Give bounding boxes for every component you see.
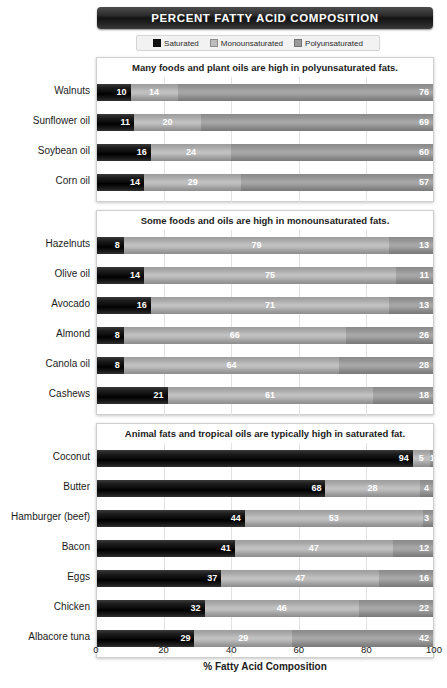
bar-segment-sat[interactable]: 32 — [97, 600, 205, 617]
bar-segment-mono[interactable]: 5 — [413, 450, 430, 467]
bar-segment-value: 12 — [393, 543, 433, 553]
bar-segment-poly[interactable]: 11 — [396, 267, 433, 284]
bar-segment-sat[interactable]: 21 — [97, 387, 168, 404]
bar-segment-value: 76 — [178, 87, 433, 97]
chart-bar-row[interactable]: 86428 — [97, 350, 433, 380]
bar-segment-poly[interactable]: 18 — [373, 387, 433, 404]
stacked-bar[interactable]: 216118 — [97, 387, 433, 404]
stacked-bar[interactable]: 86428 — [97, 357, 433, 374]
stacked-bar[interactable]: 87913 — [97, 237, 433, 254]
bar-segment-sat[interactable]: 16 — [97, 297, 151, 314]
bar-segment-mono[interactable]: 20 — [134, 114, 201, 131]
bar-segment-sat[interactable]: 8 — [97, 237, 124, 254]
x-axis-tick: 20 — [158, 644, 169, 655]
stacked-bar[interactable]: 86626 — [97, 327, 433, 344]
stacked-bar[interactable]: 112069 — [97, 114, 433, 131]
bar-segment-poly[interactable]: 22 — [359, 600, 433, 617]
bar-segment-mono[interactable]: 61 — [168, 387, 373, 404]
stacked-bar[interactable]: 324622 — [97, 600, 433, 617]
bar-segment-poly[interactable]: 16 — [379, 570, 433, 587]
bar-segment-sat[interactable]: 8 — [97, 327, 124, 344]
stacked-bar[interactable]: 9451 — [97, 450, 433, 467]
stacked-bar[interactable]: 68284 — [97, 480, 433, 497]
chart-bar-row[interactable]: 87913 — [97, 230, 433, 260]
legend-item-label: Polyunsaturated — [305, 39, 363, 48]
bar-segment-mono[interactable]: 47 — [221, 570, 379, 587]
bar-segment-poly[interactable]: 76 — [178, 84, 433, 101]
bar-segment-mono[interactable]: 29 — [144, 174, 241, 191]
chart-bar-row[interactable]: 101476 — [97, 77, 433, 107]
chart-bar-row[interactable]: 374716 — [97, 563, 433, 593]
chart-bar-row[interactable]: 112069 — [97, 107, 433, 137]
chart-bar-row[interactable]: 324622 — [97, 593, 433, 623]
bar-segment-poly[interactable]: 13 — [389, 297, 433, 314]
bar-segment-sat[interactable]: 8 — [97, 357, 124, 374]
bar-segment-mono[interactable]: 75 — [144, 267, 396, 284]
stacked-bar[interactable]: 142957 — [97, 174, 433, 191]
category-label: Butter — [63, 482, 90, 492]
bar-segment-sat[interactable]: 37 — [97, 570, 221, 587]
bar-segment-sat[interactable]: 41 — [97, 540, 235, 557]
bar-segment-sat[interactable]: 11 — [97, 114, 134, 131]
bar-segment-value: 47 — [221, 573, 379, 583]
bar-segment-value: 71 — [151, 300, 390, 310]
chart-bar-row[interactable]: 142957 — [97, 167, 433, 197]
bar-segment-poly[interactable]: 4 — [420, 480, 433, 497]
bar-segment-mono[interactable]: 53 — [245, 510, 423, 527]
chart-bar-row[interactable]: 167113 — [97, 290, 433, 320]
bar-segment-value: 75 — [144, 270, 396, 280]
bar-segment-mono[interactable]: 46 — [205, 600, 360, 617]
bar-segment-poly[interactable]: 57 — [241, 174, 433, 191]
stacked-bar[interactable]: 162460 — [97, 144, 433, 161]
stacked-bar[interactable]: 44533 — [97, 510, 433, 527]
bar-segment-sat[interactable]: 16 — [97, 144, 151, 161]
bar-segment-sat[interactable]: 44 — [97, 510, 245, 527]
stacked-bar[interactable]: 101476 — [97, 84, 433, 101]
bar-segment-poly[interactable]: 69 — [201, 114, 433, 131]
bar-segment-poly[interactable]: 28 — [339, 357, 433, 374]
chart-bar-row[interactable]: 216118 — [97, 380, 433, 410]
bar-segment-value: 28 — [325, 483, 419, 493]
bar-segment-mono[interactable]: 14 — [131, 84, 178, 101]
bar-segment-poly[interactable]: 60 — [231, 144, 433, 161]
bar-segment-sat[interactable]: 14 — [97, 174, 144, 191]
bar-segment-poly[interactable]: 12 — [393, 540, 433, 557]
bar-segment-sat[interactable]: 94 — [97, 450, 413, 467]
stacked-bar[interactable]: 167113 — [97, 297, 433, 314]
bar-segment-mono[interactable]: 64 — [124, 357, 339, 374]
stacked-bar[interactable]: 147511 — [97, 267, 433, 284]
bar-segment-poly[interactable]: 1 — [430, 450, 433, 467]
category-label: Coconut — [53, 452, 90, 462]
bar-segment-value: 61 — [168, 390, 373, 400]
bar-segment-mono[interactable]: 79 — [124, 237, 389, 254]
bar-segment-mono[interactable]: 28 — [325, 480, 419, 497]
chart-bar-row[interactable]: 9451 — [97, 443, 433, 473]
bar-segment-poly[interactable]: 13 — [389, 237, 433, 254]
chart-bar-row[interactable]: 414712 — [97, 533, 433, 563]
bar-segment-value: 79 — [124, 240, 389, 250]
chart-bar-row[interactable]: 162460 — [97, 137, 433, 167]
chart-bar-row[interactable]: 147511 — [97, 260, 433, 290]
bar-segment-mono[interactable]: 71 — [151, 297, 390, 314]
bar-segment-value: 22 — [359, 603, 433, 613]
bar-segment-mono[interactable]: 24 — [151, 144, 232, 161]
chart-bar-row[interactable]: 44533 — [97, 503, 433, 533]
bar-segment-poly[interactable]: 3 — [423, 510, 433, 527]
bar-segment-sat[interactable]: 68 — [97, 480, 325, 497]
chart-bar-row[interactable]: 68284 — [97, 473, 433, 503]
bar-segment-value: 1 — [430, 453, 433, 463]
stacked-bar[interactable]: 374716 — [97, 570, 433, 587]
chart-bar-row[interactable]: 86626 — [97, 320, 433, 350]
legend-item[interactable]: Saturated — [153, 39, 199, 48]
legend-item[interactable]: Polyunsaturated — [294, 39, 363, 48]
bar-segment-poly[interactable]: 26 — [346, 327, 433, 344]
bar-segment-mono[interactable]: 47 — [235, 540, 393, 557]
bar-segment-sat[interactable]: 14 — [97, 267, 144, 284]
legend-item[interactable]: Monounsaturated — [210, 39, 283, 48]
chart-panel: Some foods and oils are high in monounsa… — [96, 210, 434, 415]
bar-segment-sat[interactable]: 10 — [97, 84, 131, 101]
bar-segment-value: 14 — [131, 87, 178, 97]
stacked-bar[interactable]: 414712 — [97, 540, 433, 557]
bar-segment-value: 16 — [379, 573, 433, 583]
bar-segment-mono[interactable]: 66 — [124, 327, 346, 344]
